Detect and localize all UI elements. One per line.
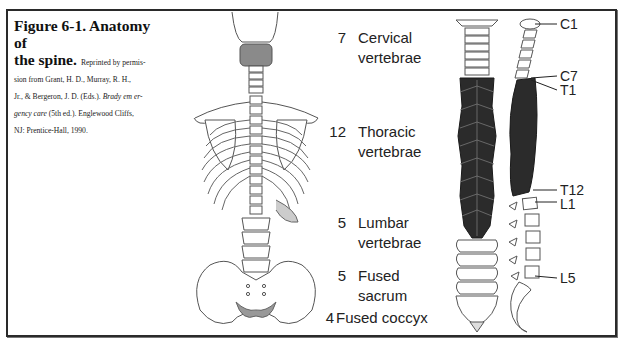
- vertebra-label-l1: L1: [560, 196, 576, 212]
- caption-credit-line3: sion from Grant, H. D., Murray, R. H.,: [14, 71, 162, 88]
- spinal-column-side-view: [505, 14, 565, 334]
- vertebra-label-l5: L5: [560, 270, 576, 286]
- posterior-skeleton-illustration: [180, 10, 330, 335]
- vertebra-label-t1: T1: [560, 82, 576, 98]
- caption-credit-line4: Jr., & Bergeron, J. D. (Eds.).: [14, 92, 101, 101]
- caption-credit-line6: NJ: Prentice-Hall, 1990.: [14, 122, 162, 139]
- caption-credit-line5: (5th ed.). Englewood Cliffs,: [49, 109, 134, 118]
- region-label-sacrum: 5 Fused sacrum: [318, 266, 428, 306]
- region-label-coccyx: 4 Fused coccyx: [306, 308, 446, 330]
- caption-title-line1: Figure 6-1. Anatomy of: [14, 17, 162, 51]
- caption-title-line2: the spine.: [14, 51, 77, 68]
- caption-credit: Reprinted by permis-: [81, 58, 146, 67]
- vertebra-label-c1: C1: [560, 16, 578, 32]
- caption-book-title-a: Brady em er-: [103, 92, 143, 101]
- spinal-column-front-view: [452, 16, 502, 332]
- figure-caption: Figure 6-1. Anatomy of the spine. Reprin…: [14, 17, 162, 139]
- caption-book-title-b: gency care: [14, 109, 47, 118]
- region-label-cervical: 7 Cervical vertebrae: [318, 28, 428, 68]
- region-label-thoracic: 12 Thoracic vertebrae: [318, 122, 428, 162]
- region-label-lumbar: 5 Lumbar vertebrae: [318, 213, 428, 253]
